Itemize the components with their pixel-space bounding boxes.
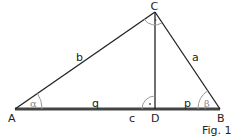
angle-beta-label: β xyxy=(204,98,210,109)
segment-q-label: q xyxy=(92,97,99,110)
figure-caption: Fig. 1 xyxy=(202,124,232,137)
right-triangle-diagram: C A B D b a c q p α β Fig. 1 xyxy=(0,0,235,138)
side-a-label: a xyxy=(192,51,199,64)
segment-p-label: p xyxy=(184,97,191,110)
alpha-arc-icon xyxy=(38,94,43,110)
vertex-a-label: A xyxy=(8,112,16,125)
vertex-c-label: C xyxy=(151,0,159,13)
angle-alpha-label: α xyxy=(30,98,37,109)
side-b-line xyxy=(15,12,155,109)
side-b-label: b xyxy=(76,51,83,64)
right-angle-d-dot-icon xyxy=(149,103,151,105)
right-angle-c-dot-icon xyxy=(155,19,157,21)
vertex-d-label: D xyxy=(151,112,159,125)
right-angle-d-arc-icon xyxy=(142,96,155,109)
right-angle-c-arc-icon xyxy=(144,19,162,25)
side-a-line xyxy=(155,12,220,109)
side-c-label: c xyxy=(129,112,135,125)
